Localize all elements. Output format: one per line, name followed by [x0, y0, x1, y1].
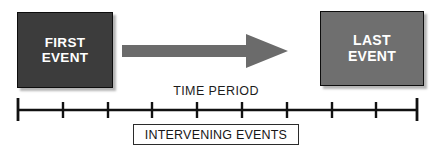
- intervening-events-label: INTERVENING EVENTS: [145, 128, 287, 142]
- intervening-events-box: INTERVENING EVENTS: [133, 124, 299, 145]
- last-event-label-line2: EVENT: [348, 49, 396, 65]
- rightward-arrow-icon: [122, 30, 288, 72]
- timeline-axis: [10, 96, 427, 122]
- first-event-box: FIRST EVENT: [17, 12, 113, 88]
- last-event-box: LAST EVENT: [320, 11, 424, 86]
- first-event-label-line1: FIRST: [45, 35, 86, 50]
- last-event-label-line1: LAST: [353, 33, 391, 49]
- timeline-diagram: FIRST EVENT LAST EVENT TIME PERIOD INTER…: [0, 0, 437, 152]
- first-event-label-line2: EVENT: [42, 50, 89, 65]
